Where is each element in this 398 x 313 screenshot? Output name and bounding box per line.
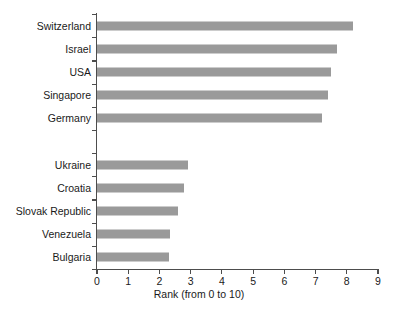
x-axis-tick-label: 2 [147,275,171,287]
x-axis-tick-label: 8 [335,275,359,287]
category-label: Ukraine [55,159,91,170]
x-axis-tick [284,269,285,274]
x-axis-tick-label: 3 [179,275,203,287]
bar [97,114,322,123]
y-axis-tick [92,130,97,131]
category-label: Switzerland [37,20,91,31]
x-axis-tick-label: 7 [304,275,328,287]
bar [97,91,328,100]
x-axis-tick [128,269,129,274]
plot-area: SwitzerlandIsraelUSASingaporeGermanyUkra… [97,14,378,269]
bar [97,160,188,169]
category-label: Venezuela [42,229,91,240]
x-axis-tick [346,269,347,274]
x-axis-title: Rank (from 0 to 10) [0,288,398,300]
bar [97,207,178,216]
y-axis-tick [92,14,97,15]
category-label: USA [69,67,91,78]
x-axis-tick [377,269,378,274]
category-label: Bulgaria [52,252,91,263]
x-axis-tick-label: 4 [210,275,234,287]
x-axis-line [96,269,379,270]
x-axis-tick-label: 1 [116,275,140,287]
bar [97,230,170,239]
category-label: Germany [48,113,91,124]
y-axis-tick [92,37,97,38]
y-axis-tick [92,107,97,108]
y-axis-tick [92,176,97,177]
x-axis-tick [315,269,316,274]
y-axis-tick [92,199,97,200]
category-label: Israel [65,44,91,55]
y-axis-tick [92,84,97,85]
x-axis-tick-label: 0 [85,275,109,287]
x-axis-tick [96,269,97,274]
y-axis-tick [92,223,97,224]
x-axis-tick-label: 9 [366,275,390,287]
bar [97,44,337,53]
y-axis-tick [92,153,97,154]
x-axis-tick [253,269,254,274]
bar-chart: SwitzerlandIsraelUSASingaporeGermanyUkra… [0,0,398,313]
x-axis-tick [221,269,222,274]
category-label: Croatia [57,183,91,194]
bar [97,67,331,76]
x-axis-tick [159,269,160,274]
bar [97,183,184,192]
bar [97,21,353,30]
x-axis-tick-label: 6 [272,275,296,287]
x-axis-tick-label: 5 [241,275,265,287]
bar [97,253,169,262]
y-axis-tick [92,60,97,61]
x-axis-tick [190,269,191,274]
category-label: Singapore [43,90,91,101]
category-label: Slovak Republic [16,206,91,217]
y-axis-tick [92,246,97,247]
